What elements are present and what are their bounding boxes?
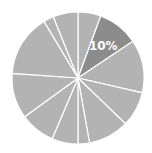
slice-percent-label: 10% <box>89 39 118 53</box>
pie-slices <box>12 12 144 144</box>
pie-chart: 10% <box>0 0 152 153</box>
pie-labels: 10% <box>89 39 118 53</box>
